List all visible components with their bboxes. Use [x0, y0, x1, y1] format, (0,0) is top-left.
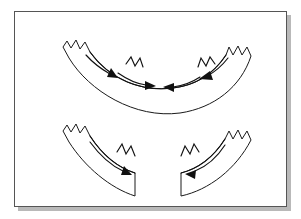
arc-segmentation-figure	[14, 11, 287, 207]
bottom-left-segment	[63, 124, 135, 196]
bottom-left-outline	[63, 124, 135, 196]
panel-bottom-split-arc	[63, 124, 251, 196]
panel-top-continuous-arc	[63, 40, 251, 114]
top-band-outline	[63, 40, 251, 114]
bottom-right-segment	[181, 130, 251, 196]
top-band-inner-teeth-right	[198, 57, 215, 67]
bottom-left-inner-teeth	[117, 144, 135, 156]
bottom-right-outline	[181, 130, 251, 196]
figure-root	[0, 0, 301, 219]
top-band-inner-teeth	[126, 57, 143, 67]
bottom-right-inner-teeth	[181, 144, 199, 156]
